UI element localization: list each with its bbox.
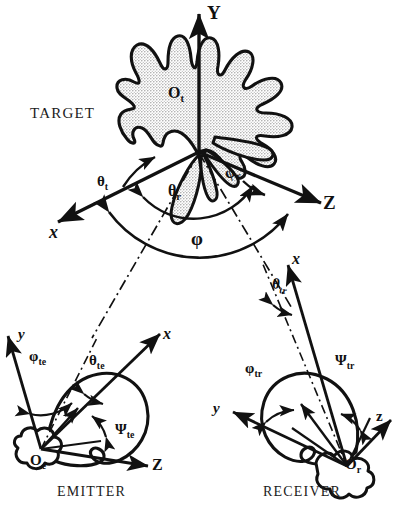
phi-tr-glyph: φ — [245, 360, 254, 376]
emitter-y-axis-label: y — [18, 326, 25, 343]
theta-t-glyph: θ — [97, 173, 105, 189]
receiver-angle-phi-tr: φtr — [245, 360, 262, 379]
receiver-angle-psi-tr: Ψtr — [335, 352, 354, 371]
receiver-angle-theta-tr: θtr — [271, 275, 289, 296]
target-angle-theta-t: θt — [97, 173, 108, 192]
psi-te-sub: te — [127, 429, 135, 440]
receiver-z-axis-label: z — [376, 408, 383, 425]
diagram-svg — [0, 0, 409, 514]
target-origin-label: Ot — [168, 84, 184, 104]
emitter-origin-letter: O — [30, 452, 42, 468]
receiver-origin-subscript: r — [357, 464, 361, 475]
receiver-y-axis-label: y — [213, 400, 220, 417]
target-radiation-pattern — [117, 36, 292, 224]
psi-te-glyph: Ψ — [115, 421, 127, 437]
emitter-x-axis-label: x — [163, 325, 171, 343]
receiver-origin-label: Or — [345, 456, 361, 475]
target-caption: TARGET — [30, 105, 95, 122]
emitter-angle-theta-te: θte — [89, 352, 105, 371]
theta-r-sub: r — [176, 191, 181, 202]
phi-glyph: φ — [191, 228, 203, 249]
emitter-angle-phi-te: φte — [29, 348, 46, 367]
arc-psi-te — [92, 416, 106, 437]
target-angle-theta-r: θr — [168, 182, 181, 202]
receiver-group — [233, 262, 391, 498]
theta-t-sub: t — [105, 181, 108, 192]
emitter-caption: EMITTER — [57, 484, 126, 500]
psi-tr-glyph: Ψ — [335, 352, 347, 368]
target-y-axis-label: Y — [207, 2, 221, 24]
theta-tr-sub: tr — [279, 284, 288, 296]
emitter-origin-label: Oe — [30, 452, 46, 471]
phi-te-sub: te — [38, 356, 46, 367]
theta-te-sub: te — [97, 360, 105, 371]
theta-te-glyph: θ — [89, 352, 97, 368]
emitter-z-axis-label: Z — [152, 456, 163, 474]
target-angle-phi: φ — [191, 228, 203, 250]
phi-tr-sub: tr — [254, 368, 262, 379]
receiver-x-axis-label: x — [292, 250, 300, 268]
psi-tr-sub: tr — [347, 360, 355, 371]
arc-phi-r — [243, 181, 265, 195]
target-x-axis-label: x — [49, 222, 58, 243]
emitter-angle-psi-te: Ψte — [115, 421, 134, 440]
target-origin-letter: O — [168, 84, 180, 101]
figure-canvas: TARGET Y x Z Ot θt θr φr φ EMITTER y x Z… — [0, 0, 409, 514]
arc-theta-tr — [273, 305, 292, 315]
target-z-axis-label: Z — [323, 192, 336, 214]
arc-phi-tr — [266, 410, 294, 422]
target-origin-subscript: t — [180, 93, 184, 104]
emitter-origin-subscript: e — [42, 460, 46, 471]
receiver-origin-letter: O — [345, 456, 357, 472]
arc-phi-te — [30, 403, 72, 415]
receiver-caption: RECEIVER — [263, 484, 341, 500]
phi-te-glyph: φ — [29, 348, 38, 364]
